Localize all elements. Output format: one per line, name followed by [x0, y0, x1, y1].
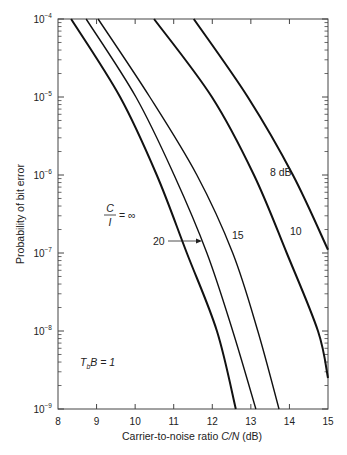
axis-ticks [58, 19, 328, 409]
x-axis-title: Carrier-to-noise ratio C/N (dB) [122, 430, 262, 442]
bit-error-chart: 8910111213141510−410−510−610−710−810−9 8… [0, 0, 347, 455]
y-tick-label: 10−7 [33, 246, 52, 259]
svg-text:TbB = 1: TbB = 1 [80, 356, 115, 370]
y-tick-label: 10−4 [33, 12, 52, 25]
label-15: 15 [232, 229, 244, 241]
curve-0 [71, 19, 236, 409]
y-tick-label: 10−8 [33, 324, 52, 337]
x-tick-label: 8 [55, 416, 61, 427]
label-8db: 8 dB [270, 166, 292, 178]
ci-denominator: I [109, 216, 112, 228]
y-tick-label: 10−9 [33, 402, 52, 415]
y-axis-title: Probability of bit error [14, 164, 26, 264]
x-tick-label: 10 [130, 416, 142, 427]
x-tick-label: 12 [207, 416, 219, 427]
x-tick-label: 13 [245, 416, 257, 427]
tick-labels: 8910111213141510−410−510−610−710−810−9 [33, 12, 334, 427]
ci-equals: = ∞ [119, 209, 136, 221]
curve-1 [86, 19, 256, 409]
plot-frame [58, 19, 328, 409]
x-tick-label: 9 [94, 416, 100, 427]
ci-numerator: C [106, 202, 114, 214]
label-tbb: TbB = 1 [80, 356, 115, 370]
label-10: 10 [290, 225, 302, 237]
label-20: 20 [153, 235, 165, 247]
y-tick-label: 10−5 [33, 90, 52, 103]
curve-4 [194, 19, 328, 250]
x-tick-label: 15 [322, 416, 334, 427]
label-ci-infinity: C I = ∞ [104, 202, 136, 228]
curve-3 [154, 19, 328, 378]
y-tick-label: 10−6 [33, 168, 52, 181]
x-tick-label: 14 [284, 416, 296, 427]
x-tick-label: 11 [169, 416, 180, 427]
tb-rest: B = 1 [90, 356, 115, 368]
arrow-20 [168, 239, 202, 244]
curves [71, 19, 328, 409]
